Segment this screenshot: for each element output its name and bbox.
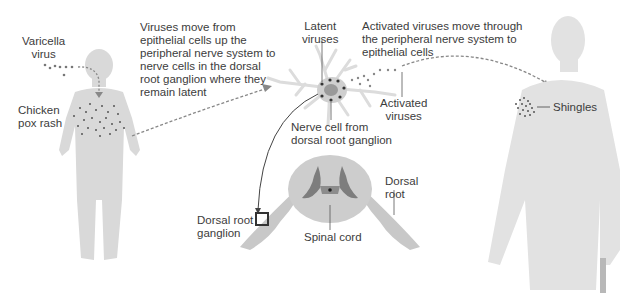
cane	[600, 258, 606, 293]
nerve-cell-label: Nerve cell from dorsal root ganglion	[291, 121, 392, 147]
activated-virus-dots	[351, 69, 396, 87]
neuron-nucleus	[324, 84, 338, 96]
step1-description: Viruses move from epithelial cells up th…	[140, 21, 276, 99]
varicella-virus-label: Varicella virus	[22, 35, 65, 61]
spinal-cord-label: Spinal cord	[304, 231, 362, 244]
shingles-label: Shingles	[553, 101, 597, 114]
latent-viruses-label: Latent viruses	[302, 20, 338, 46]
arrow-neuron-to-adult	[402, 56, 545, 82]
chicken-pox-rash-label: Chicken pox rash	[18, 104, 62, 130]
dorsal-root-ganglion-label: Dorsal root ganglion	[197, 214, 253, 240]
step2-description: Activated viruses move through the perip…	[362, 20, 522, 59]
activated-viruses-label: Activated viruses	[380, 97, 427, 123]
dorsal-root-label: Dorsal root	[385, 175, 418, 201]
varicella-virus-dots	[44, 64, 74, 77]
child-figure	[59, 49, 140, 260]
